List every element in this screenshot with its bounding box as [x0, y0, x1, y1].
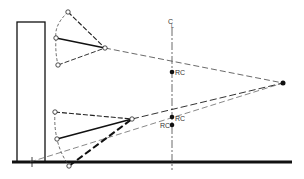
rc-point-upper — [170, 70, 175, 75]
rc-label-lower-left: RC — [160, 122, 170, 129]
rc-label-upper: RC — [175, 69, 185, 76]
centerline-sub-label: L — [171, 23, 174, 29]
lower-sight-line-a — [132, 83, 283, 119]
rc-point-lower-b — [170, 123, 175, 128]
lower-fan — [53, 110, 134, 168]
focal-point — [281, 81, 286, 86]
rc-point-lower-a — [170, 115, 175, 120]
upper-sight-line — [105, 48, 283, 83]
wall-rectangle — [17, 22, 45, 162]
diagram-canvas: C L RC RC RC — [0, 0, 304, 179]
rc-label-lower-right: RC — [175, 115, 185, 122]
lower-sight-line-b — [30, 83, 283, 162]
upper-fan — [54, 10, 107, 67]
